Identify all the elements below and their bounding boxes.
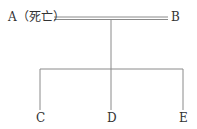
- node-b-label: B: [171, 10, 180, 24]
- node-d-label: D: [107, 111, 117, 125]
- node-e-label: E: [179, 111, 188, 125]
- node-a-label: A（死亡）: [8, 10, 65, 24]
- node-c-label: C: [36, 111, 45, 125]
